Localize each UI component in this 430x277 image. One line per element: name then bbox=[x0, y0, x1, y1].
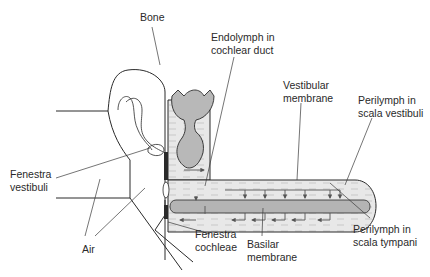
label-fenestra-vestibuli: Fenestra vestibuli bbox=[10, 168, 51, 193]
label-perilymph-vestibuli: Perilymph in scala vestibuli bbox=[358, 94, 423, 119]
label-fenestra-cochleae: Fenestra cochleae bbox=[195, 228, 237, 253]
cochlea bbox=[163, 90, 376, 232]
label-perilymph-tympani: Perilymph in scala tympani bbox=[353, 223, 417, 248]
label-endolymph: Endolymph in cochlear duct bbox=[211, 31, 275, 56]
ossicles bbox=[118, 97, 164, 156]
label-basilar-membrane: Basilar membrane bbox=[247, 238, 297, 263]
label-vestibular-membrane: Vestibular membrane bbox=[283, 79, 333, 104]
label-bone: Bone bbox=[140, 11, 165, 24]
label-air: Air bbox=[82, 243, 95, 256]
